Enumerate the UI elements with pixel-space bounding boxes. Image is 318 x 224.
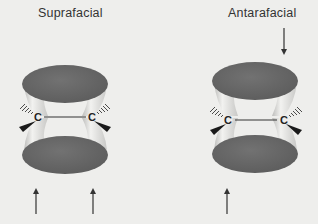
lower-lobe-b: [212, 135, 298, 173]
hashed-wedge-right-b: [289, 107, 302, 117]
upper-lobe-b: [212, 62, 298, 100]
hashed-wedge-left-b: [210, 107, 223, 117]
antarafacial-panel: C C: [210, 28, 302, 214]
carbon-atom-right-b: C: [280, 114, 288, 126]
orbital-diagram: C C C: [0, 0, 318, 224]
upper-lobe: [22, 65, 108, 103]
carbon-atom-right: C: [88, 111, 96, 123]
lower-lobe: [22, 136, 108, 174]
carbon-atom-left: C: [34, 111, 42, 123]
suprafacial-panel: C C: [19, 65, 111, 214]
carbon-atom-left-b: C: [224, 114, 232, 126]
